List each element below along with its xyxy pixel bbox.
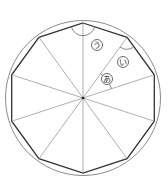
label-u: う — [93, 41, 101, 50]
label-i: い — [119, 58, 127, 67]
decagon-diagram: う い あ — [0, 0, 168, 186]
label-a: あ — [103, 75, 111, 84]
center-point — [82, 97, 85, 100]
angle-i-arc — [120, 47, 133, 49]
